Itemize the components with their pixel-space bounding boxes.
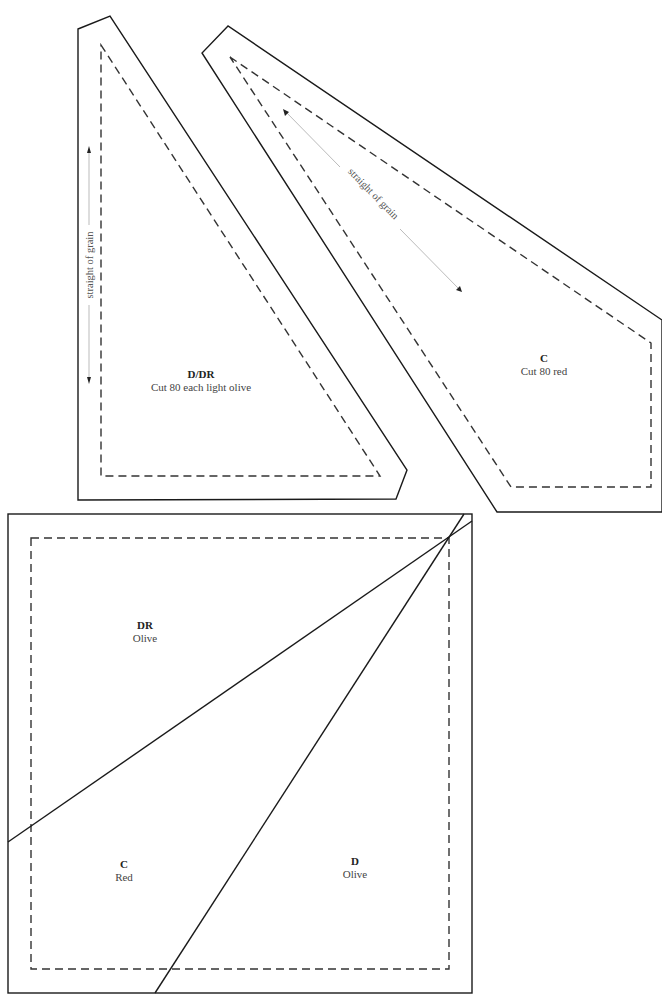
block-diagonal-dr-c: [8, 521, 472, 842]
block-piece-dr-color: Olive: [133, 632, 158, 644]
d-dr-grain-label: straight of grain: [84, 231, 95, 299]
template-c: straight of grain C Cut 80 red: [202, 26, 662, 512]
block-seam-border: [31, 538, 449, 969]
block-diagram: DR Olive C Red D Olive: [8, 514, 472, 993]
block-outer-border: [8, 514, 472, 993]
c-grain-label: straight of grain: [346, 166, 401, 222]
quilt-template-page: straight of grain D/DR Cut 80 each light…: [0, 0, 662, 1006]
d-dr-cut-line: [78, 16, 407, 500]
d-dr-instruction: Cut 80 each light olive: [151, 381, 251, 393]
block-piece-d-name: D: [351, 855, 359, 867]
c-grain-arrow: [283, 109, 462, 292]
c-title: C: [540, 352, 548, 364]
c-cut-line: [202, 26, 662, 512]
c-instruction: Cut 80 red: [521, 365, 568, 377]
block-piece-dr-name: DR: [137, 619, 154, 631]
c-seam-line: [230, 57, 651, 487]
block-piece-c-color: Red: [115, 871, 133, 883]
d-dr-seam-line: [101, 45, 380, 476]
block-diagonal-c-d: [155, 514, 464, 993]
block-piece-d-color: Olive: [343, 868, 368, 880]
template-d-dr: straight of grain D/DR Cut 80 each light…: [78, 16, 407, 500]
d-dr-title: D/DR: [188, 368, 216, 380]
block-piece-c-name: C: [120, 858, 128, 870]
